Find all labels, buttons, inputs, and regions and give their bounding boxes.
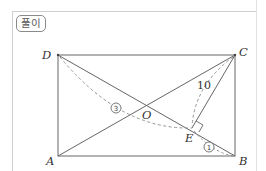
- vertex-c-dot: [234, 54, 236, 56]
- geometry-diagram: D C A B O E 10 3 1: [0, 0, 266, 171]
- circled-one-label: 1: [207, 144, 211, 152]
- label-b: B: [238, 154, 247, 168]
- length-label-ce: 10: [197, 79, 211, 92]
- label-a: A: [45, 154, 54, 168]
- vertex-d-dot: [57, 54, 59, 56]
- label-d: D: [41, 48, 51, 62]
- right-angle-marker: [196, 121, 203, 132]
- label-o: O: [142, 108, 152, 122]
- label-c: C: [239, 45, 248, 59]
- label-e: E: [184, 131, 194, 145]
- circled-three-label: 3: [114, 105, 118, 113]
